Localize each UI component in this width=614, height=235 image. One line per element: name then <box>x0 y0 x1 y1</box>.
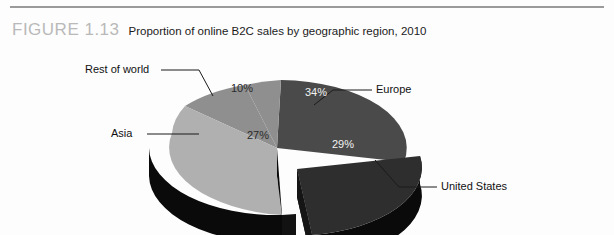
header-divider <box>10 6 604 8</box>
slice-value-united-states: 29% <box>332 138 354 150</box>
slice-united-states-group <box>297 156 422 235</box>
figure-title: Proportion of online B2C sales by geogra… <box>129 25 427 37</box>
figure-caption: FIGURE 1.13 Proportion of online B2C sal… <box>12 20 426 40</box>
callout-label-rest-of-world: Rest of world <box>85 63 149 75</box>
figure-number: FIGURE 1.13 <box>12 20 120 40</box>
leader-line-rest-of-world <box>161 70 213 96</box>
pie-chart: 34% 29% 27% 10% Europe Rest of world Asi… <box>0 38 614 235</box>
slice-value-asia: 27% <box>247 129 269 141</box>
callout-label-asia: Asia <box>111 127 132 139</box>
callout-label-united-states: United States <box>441 180 507 192</box>
slice-value-rest-of-world: 10% <box>231 82 253 94</box>
figure-container: FIGURE 1.13 Proportion of online B2C sal… <box>0 0 614 235</box>
slice-value-europe: 34% <box>305 86 327 98</box>
callout-label-europe: Europe <box>376 83 411 95</box>
pie-side-wall-main-right <box>282 214 296 235</box>
